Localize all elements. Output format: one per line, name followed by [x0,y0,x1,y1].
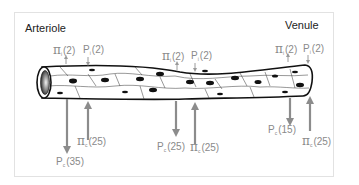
middle-capillary-oncotic-label: πc(25) [190,141,219,154]
venule-capillary-oncotic-label: πc(25) [302,135,331,148]
venule-interstitial-oncotic-label: πi(2) [275,43,297,56]
vessel-body [37,65,312,99]
venule-capillary-hydrostatic-label: Pc(15) [268,125,296,136]
arteriole-capillary-oncotic-label: πc(25) [77,135,106,148]
arteriole-title: Arteriole [25,22,66,34]
arteriole-interstitial-oncotic-label: πi(2) [53,44,75,57]
venule-title: Venule [285,19,319,31]
middle-capillary-hydrostatic-label: Pc(25) [157,142,185,153]
arteriole-capillary-hydrostatic-label: Pc(35) [56,157,84,168]
venule-interstitial-hydrostatic-label: Pi(2) [303,44,324,55]
middle-interstitial-hydrostatic-label: Pi(2) [191,51,212,62]
arteriole-interstitial-hydrostatic-label: Pi(2) [83,45,104,56]
middle-interstitial-oncotic-label: πi(2) [162,50,184,63]
